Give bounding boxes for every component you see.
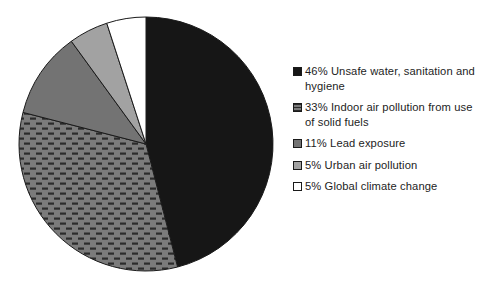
- legend-item[interactable]: 46% Unsafe water, sanitation and hygiene: [293, 64, 475, 93]
- legend-item-label: 5% Global climate change: [305, 179, 437, 194]
- legend-item-label: 46% Unsafe water, sanitation and hygiene: [305, 64, 475, 93]
- legend-swatch-icon: [293, 103, 302, 112]
- legend-item-label: 5% Urban air pollution: [305, 158, 417, 173]
- legend-item-label: 33% Indoor air pollution from use of sol…: [305, 100, 475, 129]
- legend-swatch-icon: [293, 139, 302, 148]
- legend-item[interactable]: 33% Indoor air pollution from use of sol…: [293, 100, 475, 129]
- pie-chart-svg: [18, 16, 274, 272]
- legend-swatch-icon: [293, 161, 302, 170]
- legend-swatch-icon: [293, 182, 302, 191]
- legend-item[interactable]: 5% Urban air pollution: [293, 158, 475, 173]
- chart-legend: 46% Unsafe water, sanitation and hygiene…: [293, 64, 475, 201]
- legend-swatch-icon: [293, 67, 302, 76]
- legend-item-label: 11% Lead exposure: [305, 136, 405, 151]
- pie-chart-plot-area: [18, 16, 274, 272]
- legend-item[interactable]: 11% Lead exposure: [293, 136, 475, 151]
- legend-item[interactable]: 5% Global climate change: [293, 179, 475, 194]
- pie-chart-figure: 46% Unsafe water, sanitation and hygiene…: [0, 0, 478, 287]
- pie-slice-group: [19, 17, 273, 271]
